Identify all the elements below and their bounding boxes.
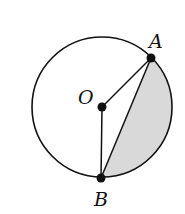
diagram-canvas: A O B [0,0,185,214]
point-A-label: A [147,30,163,52]
radius-OB [101,107,102,178]
point-O-dot [98,103,107,112]
point-B-dot [97,174,106,183]
circle-diagram: A O B [0,0,185,214]
point-O-label: O [78,86,94,108]
point-B-label: B [93,188,108,210]
point-A-dot [147,54,156,63]
shaded-circular-segment [101,58,172,178]
